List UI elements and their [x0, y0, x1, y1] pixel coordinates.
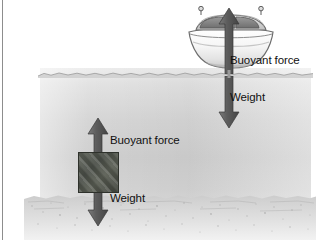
page-left-rule — [2, 0, 3, 240]
block-buoyant-force-label: Buoyant force — [110, 134, 180, 147]
buoyancy-diagram: Buoyant force Weight Buoyant force Weigh… — [0, 0, 325, 240]
block-buoyant-arrow — [87, 118, 109, 154]
sea-floor — [24, 188, 316, 240]
block-weight-label: Weight — [110, 192, 145, 205]
boat-arrow-connector — [225, 70, 233, 78]
boat-buoyant-force-label: Buoyant force — [230, 54, 300, 67]
submerged-block — [78, 152, 119, 193]
boat-weight-label: Weight — [230, 91, 265, 104]
